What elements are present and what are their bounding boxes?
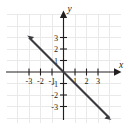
x-axis-label: x: [118, 60, 124, 70]
coordinate-plane: -3 -2 -1 1 2 3 3 2 1 -1 -2 -3 x y: [0, 0, 128, 128]
graph-figure: -3 -2 -1 1 2 3 3 2 1 -1 -2 -3 x y: [0, 0, 128, 128]
y-axis-label: y: [67, 4, 73, 14]
y-tick-label--2: -2: [51, 91, 58, 100]
x-tick-label-2: 2: [84, 77, 88, 86]
y-tick-label--1: -1: [51, 80, 58, 89]
x-tick-label-3: 3: [96, 77, 100, 86]
y-tick-label-2: 2: [54, 45, 58, 54]
y-tick-label-3: 3: [54, 34, 58, 43]
x-tick-label--2: -2: [37, 77, 44, 86]
x-tick-label--3: -3: [26, 77, 33, 86]
y-tick-label--3: -3: [51, 103, 58, 112]
